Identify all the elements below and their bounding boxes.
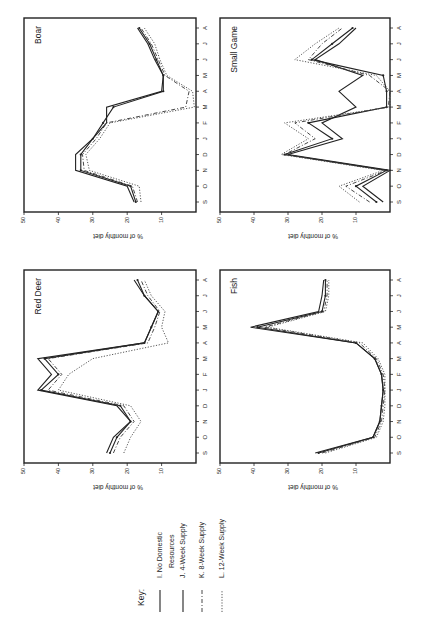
- month-tick-label: J: [396, 310, 402, 313]
- month-tick-label: M: [396, 73, 402, 78]
- series-marker: [155, 59, 157, 61]
- series-marker: [92, 138, 94, 140]
- month-tick-label: M: [396, 105, 402, 110]
- series-marker: [324, 295, 326, 297]
- series-marker: [324, 279, 326, 281]
- value-tick-label: 30: [89, 217, 95, 223]
- value-tick-label: 50: [20, 468, 26, 474]
- month-tick-label: J: [396, 389, 402, 392]
- series-marker: [57, 373, 59, 375]
- value-tick-label: 30: [284, 217, 290, 223]
- series-marker: [102, 122, 104, 124]
- month-tick-label: N: [202, 168, 208, 172]
- value-tick-label: 40: [55, 217, 61, 223]
- month-tick-label: A: [202, 341, 208, 345]
- series-marker: [150, 326, 152, 328]
- series-marker: [382, 74, 384, 76]
- month-tick-label: J: [396, 294, 402, 297]
- legend-label-l: L. 12-Week Supply: [218, 518, 226, 578]
- series-marker: [380, 405, 382, 407]
- month-tick-label: J: [396, 137, 402, 140]
- month-tick-label: O: [202, 435, 208, 440]
- month-tick-label: F: [396, 121, 402, 125]
- month-tick-label: F: [202, 121, 208, 125]
- series-marker: [116, 436, 118, 438]
- panel-fish: SONDJFMAMJJA5040302010% of monthly dietF…: [216, 270, 401, 491]
- value-tick-label: 50: [20, 217, 26, 223]
- series-marker: [80, 153, 82, 155]
- month-tick-label: M: [396, 356, 402, 361]
- month-tick-label: J: [396, 42, 402, 45]
- legend-label-i: I. No Domestic: [156, 532, 163, 578]
- month-tick-label: M: [202, 105, 208, 110]
- value-tick-label: 50: [216, 217, 222, 223]
- series-marker: [379, 420, 381, 422]
- month-tick-label: J: [202, 58, 208, 61]
- month-tick-label: S: [202, 451, 208, 455]
- legend-label-j: J. 4-Week Supply: [179, 523, 187, 578]
- month-tick-label: A: [396, 89, 402, 93]
- series-line-j: [41, 280, 158, 453]
- month-tick-label: A: [202, 278, 208, 282]
- series-line-i: [251, 280, 384, 453]
- series-marker: [136, 279, 138, 281]
- y-axis-title: % of monthly diet: [93, 483, 143, 491]
- series-marker: [386, 90, 388, 92]
- series-line-i: [76, 28, 164, 202]
- month-tick-label: D: [202, 152, 208, 157]
- panel-red-deer: SONDJFMAMJJA5040302010% of monthly dietR…: [20, 270, 207, 491]
- value-tick-label: 30: [284, 468, 290, 474]
- month-tick-label: J: [202, 294, 208, 297]
- month-tick-label: D: [202, 403, 208, 408]
- y-axis-title: % of monthly diet: [288, 232, 338, 240]
- value-tick-label: 20: [318, 217, 324, 223]
- series-marker: [143, 295, 145, 297]
- series-line-l: [281, 28, 390, 202]
- month-tick-label: S: [396, 451, 402, 455]
- month-tick-label: S: [202, 200, 208, 204]
- plot-frame: [220, 270, 390, 463]
- series-marker: [352, 27, 354, 29]
- month-tick-label: O: [396, 184, 402, 189]
- plot-frame: [220, 18, 390, 212]
- series-marker: [380, 373, 382, 375]
- figure: SONDJFMAMJJA5040302010% of monthly dietB…: [0, 0, 421, 632]
- y-axis-title: % of monthly diet: [93, 232, 143, 240]
- series-marker: [109, 452, 111, 454]
- month-tick-label: A: [396, 341, 402, 345]
- month-tick-label: J: [396, 58, 402, 61]
- plot-frame: [24, 18, 196, 212]
- value-tick-label: 50: [216, 468, 222, 474]
- series-marker: [130, 420, 132, 422]
- series-line-k: [48, 280, 160, 453]
- month-tick-label: A: [202, 26, 208, 30]
- month-tick-label: D: [396, 152, 402, 157]
- series-marker: [162, 90, 164, 92]
- value-tick-label: 40: [250, 217, 256, 223]
- series-marker: [331, 138, 333, 140]
- series-marker: [382, 389, 384, 391]
- series-marker: [80, 169, 82, 171]
- value-tick-label: 10: [158, 217, 164, 223]
- month-tick-label: A: [202, 89, 208, 93]
- month-tick-label: J: [202, 389, 208, 392]
- panel-small-game: SONDJFMAMJJA5040302010% of monthly dietS…: [216, 18, 401, 240]
- month-tick-label: S: [396, 200, 402, 204]
- rotated-figure-canvas: SONDJFMAMJJA5040302010% of monthly dietB…: [0, 0, 421, 632]
- value-tick-label: 10: [352, 217, 358, 223]
- series-marker: [148, 43, 150, 45]
- y-axis-title: % of monthly diet: [288, 483, 338, 491]
- month-tick-label: D: [396, 403, 402, 408]
- series-marker: [331, 43, 333, 45]
- series-line-k: [264, 280, 385, 453]
- series-marker: [355, 185, 357, 187]
- series-line-l: [58, 280, 168, 453]
- panel-title: Red Deer: [33, 278, 43, 315]
- series-marker: [318, 452, 320, 454]
- series-marker: [138, 27, 140, 29]
- series-marker: [162, 74, 164, 76]
- panel-boar: SONDJFMAMJJA5040302010% of monthly dietB…: [20, 18, 207, 240]
- month-tick-label: N: [396, 168, 402, 172]
- panel-title: Boar: [33, 26, 43, 44]
- value-tick-label: 40: [55, 468, 61, 474]
